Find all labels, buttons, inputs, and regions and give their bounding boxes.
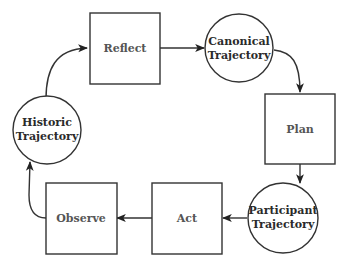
node-canonical-trajectory: Canonical Trajectory xyxy=(205,14,273,82)
node-participant-label-line2: Trajectory xyxy=(252,218,315,231)
flow-diagram: Reflect Canonical Trajectory Plan Partic… xyxy=(0,0,344,267)
node-historic-trajectory: Historic Trajectory xyxy=(13,96,81,164)
node-participant-label-line1: Participant xyxy=(249,204,319,217)
node-observe: Observe xyxy=(46,183,117,254)
node-reflect-label: Reflect xyxy=(104,42,148,55)
node-act: Act xyxy=(152,183,222,254)
node-canonical-label-line1: Canonical xyxy=(208,35,269,48)
node-canonical-label-line2: Trajectory xyxy=(208,49,271,62)
node-reflect: Reflect xyxy=(90,13,160,84)
node-observe-label: Observe xyxy=(56,212,106,225)
node-plan: Plan xyxy=(265,94,335,164)
node-participant-trajectory: Participant Trajectory xyxy=(248,183,318,253)
edge-observe-to-historic xyxy=(29,162,46,218)
edge-historic-to-reflect xyxy=(46,48,87,99)
node-act-label: Act xyxy=(176,212,198,225)
edge-canonical-to-plan xyxy=(274,50,300,92)
node-historic-label-line1: Historic xyxy=(22,116,72,129)
node-plan-label: Plan xyxy=(286,123,314,136)
node-historic-label-line2: Trajectory xyxy=(16,130,79,143)
